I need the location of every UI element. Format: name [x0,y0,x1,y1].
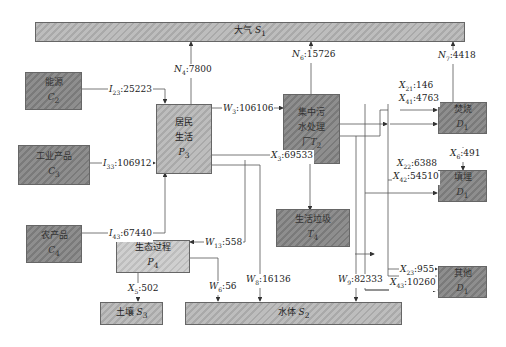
flow-label-X6: X6:491 [449,148,481,162]
node-water-body: 水体 S2 [185,302,402,325]
node-incineration: 焚烧 D1 [438,102,487,134]
flow-label-W8: W8:16136 [245,274,292,288]
node-soil: 土壤 S3 [100,302,163,325]
node-agri-products: 农产品 C4 [26,225,82,263]
flow-label-X5: X5:502 [127,283,159,297]
flow-label-I23: I23:25223 [108,84,153,98]
flow-label-W6: W6:56 [208,281,238,295]
node-residents: 居民 生活 P3 [156,104,212,174]
flow-label-X42: X42:54510 [392,171,440,185]
flow-label-N6: N6:15726 [291,49,336,63]
flow-label-X23: X23:955 [399,264,435,278]
flow-label-W13: W13:558 [204,237,243,251]
node-energy: 能源 C2 [25,72,82,110]
node-other-disposal: 其他 D1 [438,266,487,298]
atmosphere-label: 大气 [234,25,252,35]
node-industrial-products: 工业产品 C3 [18,145,90,185]
flow-label-W3: W3:106106 [222,103,274,117]
flow-label-N7: N7:4418 [437,50,477,64]
flow-label-I33: I33:106912 [102,158,153,172]
node-landfill: 填埋 D1 [438,170,487,202]
flow-label-I43: I43:67440 [108,228,153,242]
flow-label-X43: X43:10260 [389,277,437,291]
flow-label-N4: N4:7800 [173,64,213,78]
node-atmosphere: 大气 S1 [35,22,465,42]
flow-label-X3: X3:69533 [270,150,314,164]
flow-label-X22: X22:6388 [396,158,438,172]
flow-label-X21: X21:146 [398,80,434,94]
node-household-waste: 生活垃圾 T4 [276,209,350,247]
flow-label-W9: W9:82333 [337,274,384,288]
node-eco-process: 生态过程 P4 [116,240,190,273]
flow-label-X41: X41:4763 [398,93,440,107]
